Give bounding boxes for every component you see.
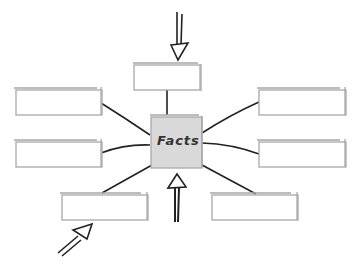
box-left-lower (14, 139, 102, 167)
arrow-center-bottom (168, 174, 186, 222)
arrow-top (171, 12, 188, 60)
box-right-upper (257, 87, 346, 115)
box-top (133, 63, 201, 91)
arrow-bottom-left (58, 224, 92, 256)
center-label: Facts (157, 133, 200, 148)
box-left-upper (14, 87, 102, 115)
connector-right-upper (202, 102, 259, 133)
connector-bottom-left (102, 165, 152, 193)
connector-left-upper (101, 103, 150, 135)
box-bottom-left (60, 192, 148, 220)
connector-bottom-right (202, 165, 256, 194)
connector-right-lower (202, 143, 259, 154)
box-right-lower (257, 139, 346, 167)
box-bottom-right (210, 192, 298, 220)
connector-left-lower (101, 145, 150, 153)
